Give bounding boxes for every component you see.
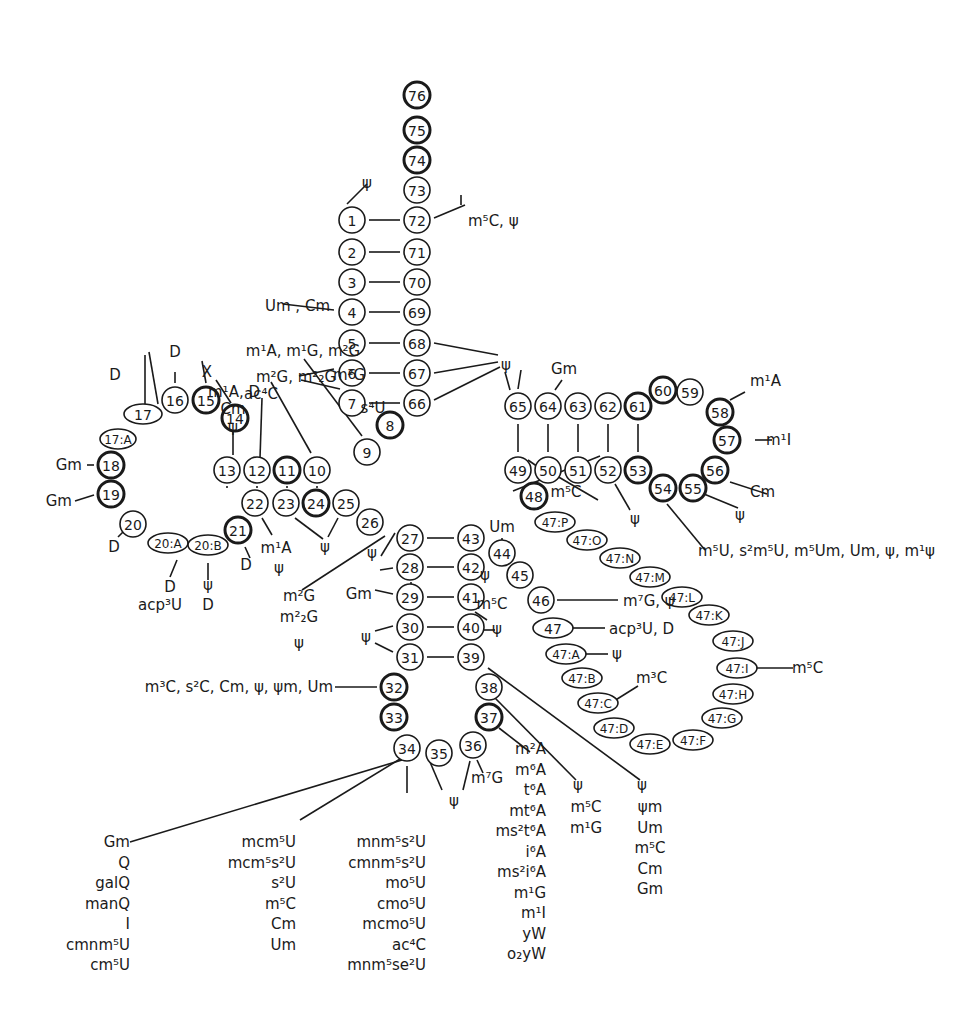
anticodon-modification-item: galQ xyxy=(95,874,130,892)
node-number: 64 xyxy=(539,399,557,415)
nucleotide-node-47-m: 47:M xyxy=(630,567,670,587)
anticodon-modification-item: Q xyxy=(118,854,130,872)
nucleotide-node-2: 2 xyxy=(339,239,365,265)
anticodon-modification-item: I xyxy=(126,915,130,933)
nucleotide-node-66: 66 xyxy=(404,390,430,416)
node-number: 69 xyxy=(408,305,426,321)
modification-label: acp³U, D xyxy=(609,620,674,638)
modification-label: ψ xyxy=(274,559,284,577)
node-number: 63 xyxy=(569,399,587,415)
nucleotide-node-51: 51 xyxy=(565,457,591,483)
node-number: 72 xyxy=(408,213,426,229)
node-number: 30 xyxy=(401,620,419,636)
modification-label: ψ xyxy=(630,510,640,528)
nucleotide-node-65: 65 xyxy=(505,393,531,419)
node-number: 47:D xyxy=(600,722,629,736)
nucleotide-node-20-a: 20:A xyxy=(148,533,188,553)
modification-label: ψ xyxy=(492,620,502,638)
modification-label: ψ xyxy=(480,566,490,584)
node-number: 29 xyxy=(401,590,419,606)
modification-label: m⁷G, ψ xyxy=(623,592,675,610)
node-number: 20:A xyxy=(154,537,182,551)
node-number: 47:K xyxy=(695,609,723,623)
modification-label: m¹A xyxy=(750,372,782,390)
anticodon-modification-item: m¹G xyxy=(570,819,602,837)
node-number: 24 xyxy=(307,496,325,512)
nucleotide-node-12: 12 xyxy=(244,457,270,483)
node-number: 61 xyxy=(629,399,647,415)
modification-label: Gm xyxy=(46,492,72,510)
node-number: 45 xyxy=(511,568,529,584)
nucleotide-node-47-n: 47:N xyxy=(600,548,640,568)
node-number: 18 xyxy=(102,458,120,474)
node-number: 58 xyxy=(711,405,729,421)
nucleotide-node-30: 30 xyxy=(397,614,423,640)
nucleotide-node-19: 19 xyxy=(98,481,124,507)
nucleotide-node-76: 76 xyxy=(404,82,430,108)
node-number: 48 xyxy=(525,489,543,505)
nucleotide-node-43: 43 xyxy=(458,525,484,551)
anticodon-modification-item: m¹G xyxy=(514,884,546,902)
nucleotide-node-54: 54 xyxy=(650,475,676,501)
bond-line xyxy=(262,518,272,535)
nucleotide-node-55: 55 xyxy=(680,475,706,501)
nucleotide-node-47-c: 47:C xyxy=(578,693,618,713)
bond-line xyxy=(170,560,177,577)
nucleotide-node-25: 25 xyxy=(333,490,359,516)
nucleotide-node-24: 24 xyxy=(303,490,329,516)
modification-label: m³C, s²C, Cm, ψ, ψm, Um xyxy=(145,678,333,696)
bond-line xyxy=(149,352,158,404)
nucleotide-node-17-a: 17:A xyxy=(100,429,136,449)
bond-line xyxy=(730,392,745,400)
node-number: 25 xyxy=(337,496,355,512)
nucleotide-node-3: 3 xyxy=(339,269,365,295)
nucleotide-node-47-p: 47:P xyxy=(535,512,575,532)
node-number: 10 xyxy=(308,463,326,479)
nucleotide-node-18: 18 xyxy=(98,452,124,478)
modification-label: ψ xyxy=(367,544,377,562)
modification-label: Cm xyxy=(220,400,245,418)
nucleotide-node-48: 48 xyxy=(521,483,547,509)
anticodon-modification-item: cmo⁵U xyxy=(377,895,426,913)
node-number: 20:B xyxy=(194,539,222,553)
node-number: 53 xyxy=(629,463,647,479)
modification-label: m⁷G xyxy=(471,769,503,787)
anticodon-modification-item: Cm xyxy=(271,915,296,933)
anticodon-modification-item: mcmo⁵U xyxy=(362,915,426,933)
anticodon-modification-item: ms²i⁶A xyxy=(497,863,547,881)
modification-label: m⁵C xyxy=(476,595,507,613)
nucleotide-node-47-o: 47:O xyxy=(567,530,607,550)
bond-line xyxy=(260,398,262,458)
nucleotide-node-47-g: 47:G xyxy=(702,708,742,728)
modification-label: X xyxy=(202,363,212,381)
node-number: 49 xyxy=(509,463,527,479)
trna-cloverleaf-diagram: 7675747372717069686766123456789101112131… xyxy=(0,0,980,1014)
node-number: 22 xyxy=(246,496,264,512)
bond-line xyxy=(375,590,393,594)
modification-label: Cm xyxy=(750,483,775,501)
nucleotide-node-32: 32 xyxy=(381,674,407,700)
anticodon-modification-item: m⁵C xyxy=(570,798,601,816)
anticodon-modification-item: Um xyxy=(637,819,663,837)
bond-line xyxy=(375,643,393,652)
node-number: 74 xyxy=(408,153,426,169)
node-number: 11 xyxy=(278,463,296,479)
anticodon-modification-item: ac⁴C xyxy=(392,936,426,954)
modification-label: s⁴U xyxy=(361,399,386,417)
modification-label: m¹A xyxy=(261,539,293,557)
nucleotide-node-70: 70 xyxy=(404,269,430,295)
node-number: 4 xyxy=(348,305,357,321)
nucleotide-node-27: 27 xyxy=(397,525,423,551)
node-number: 19 xyxy=(102,487,120,503)
modification-label: ψ xyxy=(294,634,304,652)
modification-label: m⁵C xyxy=(550,483,581,501)
node-number: 40 xyxy=(462,620,480,636)
node-number: 7 xyxy=(348,396,357,412)
node-number: 47:J xyxy=(722,635,745,649)
node-number: 26 xyxy=(361,515,379,531)
bond-line xyxy=(75,495,94,501)
nucleotide-node-47-e: 47:E xyxy=(630,734,670,754)
nucleotide-node-33: 33 xyxy=(381,704,407,730)
anticodon-modification-item: Gm xyxy=(637,880,663,898)
node-number: 37 xyxy=(480,710,498,726)
